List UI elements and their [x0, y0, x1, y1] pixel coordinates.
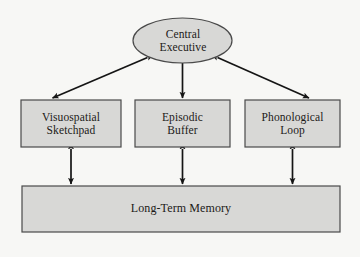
connector-central-executive-to-visuospatial-sketchpad [53, 58, 148, 99]
node-shape-episodic-buffer[interactable] [135, 100, 230, 147]
node-shape-group [21, 18, 340, 232]
node-shape-long-term-memory[interactable] [22, 186, 340, 232]
node-shape-phonological-loop[interactable] [245, 100, 340, 147]
working-memory-diagram: Central Executive Visuospatial Sketchpad… [0, 0, 360, 257]
node-shape-central-executive[interactable] [133, 18, 232, 63]
node-shape-visuospatial-sketchpad[interactable] [21, 100, 121, 147]
diagram-canvas [0, 0, 360, 257]
connector-central-executive-to-phonological-loop [218, 58, 310, 99]
